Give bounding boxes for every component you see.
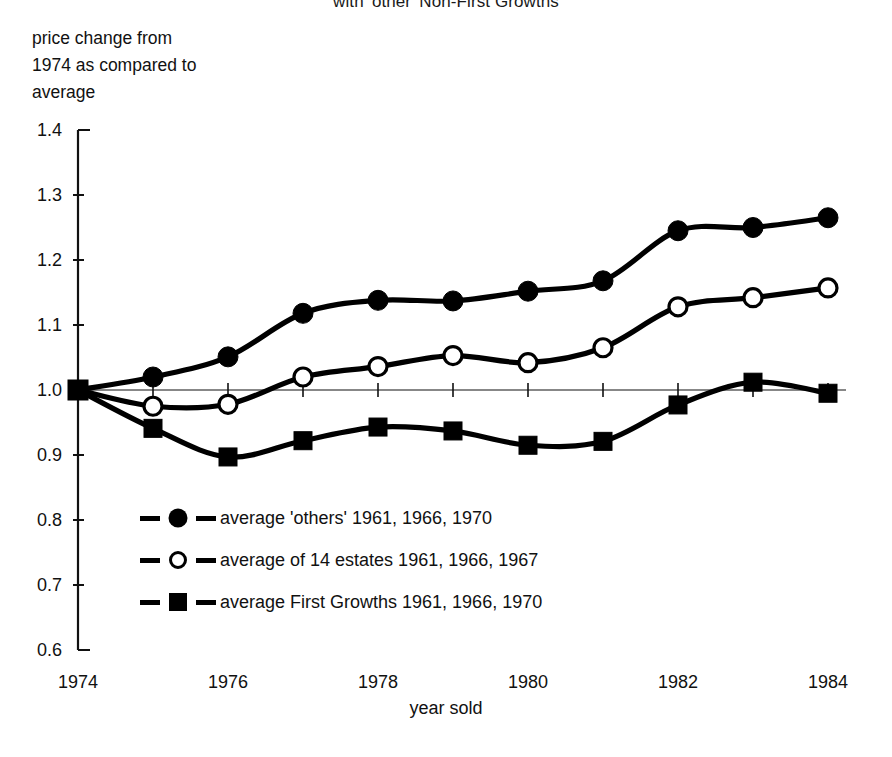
data-point[interactable]: [593, 271, 613, 291]
data-point[interactable]: [443, 291, 463, 311]
x-tick-label: 1978: [358, 672, 398, 692]
data-point[interactable]: [144, 397, 162, 415]
data-point[interactable]: [669, 298, 687, 316]
data-point[interactable]: [218, 347, 238, 367]
x-tick-label: 1984: [808, 672, 848, 692]
data-point-origin[interactable]: [68, 380, 88, 400]
data-point[interactable]: [368, 290, 388, 310]
x-tick-label: 1974: [58, 672, 98, 692]
data-series-group: [68, 208, 838, 466]
data-point[interactable]: [369, 418, 387, 436]
y-tick-label: 0.7: [37, 575, 62, 595]
y-tick-label: 1.0: [37, 380, 62, 400]
legend: average 'others' 1961, 1966, 1970 averag…: [140, 497, 542, 623]
chart-root: with 'other' Non-First Growths price cha…: [0, 0, 892, 757]
data-point[interactable]: [819, 384, 837, 402]
data-point[interactable]: [519, 436, 537, 454]
data-point[interactable]: [369, 358, 387, 376]
y-tick-label: 1.2: [37, 250, 62, 270]
y-tick-label: 0.9: [37, 445, 62, 465]
data-point[interactable]: [818, 208, 838, 228]
data-point[interactable]: [143, 367, 163, 387]
data-point[interactable]: [219, 395, 237, 413]
data-point[interactable]: [594, 432, 612, 450]
data-point[interactable]: [819, 279, 837, 297]
data-point[interactable]: [744, 373, 762, 391]
x-tick-label: 1976: [208, 672, 248, 692]
y-tick-label: 1.1: [37, 315, 62, 335]
data-point[interactable]: [293, 303, 313, 323]
legend-item-label: average First Growths 1961, 1966, 1970: [216, 592, 542, 613]
plot-area: 1.41.31.21.11.00.90.80.70.6 197419761978…: [0, 0, 892, 757]
y-tick-label: 1.3: [37, 185, 62, 205]
legend-item[interactable]: average 'others' 1961, 1966, 1970: [140, 497, 542, 539]
legend-item[interactable]: average First Growths 1961, 1966, 1970: [140, 581, 542, 623]
legend-key-square-filled-icon: [140, 589, 216, 615]
data-point[interactable]: [669, 396, 687, 414]
data-point[interactable]: [444, 422, 462, 440]
data-point[interactable]: [743, 218, 763, 238]
legend-item-label: average of 14 estates 1961, 1966, 1967: [216, 550, 538, 571]
y-tick-label: 0.6: [37, 640, 62, 660]
data-point[interactable]: [594, 339, 612, 357]
legend-key-circle-open-icon: [140, 547, 216, 573]
data-point[interactable]: [144, 419, 162, 437]
data-point[interactable]: [668, 221, 688, 241]
legend-item[interactable]: average of 14 estates 1961, 1966, 1967: [140, 539, 542, 581]
y-tick-label: 1.4: [37, 120, 62, 140]
x-axis-title: year sold: [0, 698, 892, 719]
data-point[interactable]: [444, 347, 462, 365]
data-point[interactable]: [744, 289, 762, 307]
data-point[interactable]: [519, 354, 537, 372]
legend-item-label: average 'others' 1961, 1966, 1970: [216, 508, 492, 529]
legend-key-circle-filled-icon: [140, 505, 216, 531]
data-point[interactable]: [294, 368, 312, 386]
data-point[interactable]: [294, 432, 312, 450]
x-tick-label: 1982: [658, 672, 698, 692]
x-tick-label: 1980: [508, 672, 548, 692]
data-point[interactable]: [518, 281, 538, 301]
y-tick-label: 0.8: [37, 510, 62, 530]
data-point[interactable]: [219, 448, 237, 466]
